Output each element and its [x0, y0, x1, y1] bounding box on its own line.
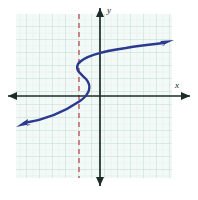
y-axis-bottom-arrow [96, 177, 104, 186]
graph-figure: x y [0, 0, 198, 200]
coordinate-plane: x y [0, 0, 198, 200]
x-axis-right-arrow [181, 92, 190, 100]
y-axis-label: y [106, 5, 111, 15]
x-axis-label: x [174, 80, 179, 90]
y-axis-top-arrow [96, 8, 104, 17]
x-axis-left-arrow [8, 92, 17, 100]
